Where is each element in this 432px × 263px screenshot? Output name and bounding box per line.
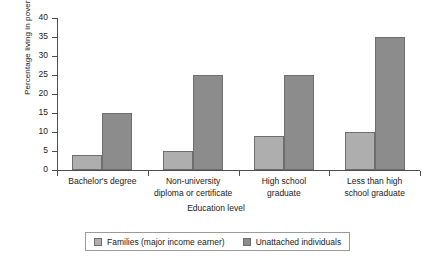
bar	[193, 75, 223, 170]
y-axis-tick: 40	[52, 18, 57, 19]
y-axis-tick-label: 20	[39, 88, 48, 99]
legend-swatch-icon	[94, 238, 102, 246]
x-axis-category-label: Less than highschool graduate	[319, 176, 430, 199]
chart-legend: Families (major income earner)Unattached…	[85, 232, 350, 251]
y-axis-tick-label: 40	[39, 12, 48, 23]
y-axis-tick-label: 25	[39, 69, 48, 80]
y-axis-title: Percentage living in poverty	[23, 0, 32, 130]
y-axis-tick-label: 0	[43, 164, 48, 175]
y-axis-tick: 35	[52, 37, 57, 38]
y-axis-tick: 15	[52, 113, 57, 114]
bar-chart: Percentage living in poverty 05101520253…	[0, 0, 432, 263]
legend-entry[interactable]: Unattached individuals	[243, 237, 342, 247]
legend-swatch-icon	[243, 238, 251, 246]
legend-label: Unattached individuals	[256, 237, 342, 247]
y-axis-tick-label: 15	[39, 107, 48, 118]
legend-entry[interactable]: Families (major income earner)	[94, 237, 225, 247]
y-axis-tick: 5	[52, 151, 57, 152]
x-axis-label-line: Less than high	[319, 176, 430, 188]
bar	[102, 113, 132, 170]
bar	[375, 37, 405, 170]
y-axis-tick-label: 5	[43, 145, 48, 156]
bar	[254, 136, 284, 170]
y-axis-tick-label: 10	[39, 126, 48, 137]
x-axis-title: Education level	[0, 203, 432, 213]
y-axis-tick-label: 35	[39, 31, 48, 42]
y-axis-tick: 20	[52, 94, 57, 95]
y-axis-tick: 25	[52, 75, 57, 76]
bar	[163, 151, 193, 170]
bar	[284, 75, 314, 170]
y-axis-tick: 30	[52, 56, 57, 57]
bar	[72, 155, 102, 170]
y-axis-tick: 10	[52, 132, 57, 133]
plot-area: 0510152025303540	[57, 18, 420, 170]
x-axis-label-line: school graduate	[319, 188, 430, 200]
bar	[345, 132, 375, 170]
legend-label: Families (major income earner)	[107, 237, 225, 247]
y-axis-tick-label: 30	[39, 50, 48, 61]
y-axis-line	[57, 18, 58, 171]
